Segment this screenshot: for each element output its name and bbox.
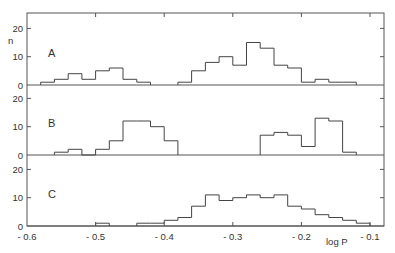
panel-b: 01020B — [12, 93, 384, 161]
y-tick-label: 20 — [12, 164, 23, 175]
y-tick-label: 0 — [18, 150, 23, 161]
x-tick-label: - 0.5 — [86, 231, 105, 242]
histogram-bars — [54, 121, 177, 155]
histogram-bars — [137, 195, 370, 226]
x-axis-label: log P — [326, 236, 348, 247]
histogram-bars — [260, 118, 356, 155]
y-tick-label: 10 — [12, 51, 23, 62]
plot-border — [27, 13, 384, 226]
x-tick-label: - 0.4 — [155, 231, 174, 242]
panel-label: C — [48, 188, 56, 200]
y-tick-label: 10 — [12, 192, 23, 203]
y-axis-label: n — [8, 35, 13, 46]
histogram-bars — [178, 43, 356, 86]
x-tick-label: - 0.2 — [292, 231, 311, 242]
y-tick-label: 0 — [18, 221, 23, 232]
chart-frame — [27, 13, 384, 226]
panel-a: 01020A — [12, 23, 384, 91]
panel-label: A — [48, 47, 56, 59]
y-tick-label: 10 — [12, 121, 23, 132]
y-tick-label: 20 — [12, 23, 23, 34]
x-tick-label: - 0.6 — [17, 231, 36, 242]
x-axis: - 0.6- 0.5- 0.4- 0.3- 0.2- 0.1 — [17, 13, 379, 242]
chart-panels: 01020A01020B01020C — [12, 23, 384, 232]
panel-label: B — [48, 117, 55, 129]
panel-c: 01020C — [12, 164, 384, 232]
histogram-bars — [41, 68, 151, 85]
x-tick-label: - 0.3 — [223, 231, 242, 242]
y-tick-label: 20 — [12, 93, 23, 104]
y-tick-label: 0 — [18, 80, 23, 91]
x-tick-label: - 0.1 — [360, 231, 379, 242]
histogram-chart: 01020A01020B01020C - 0.6- 0.5- 0.4- 0.3-… — [0, 0, 395, 253]
